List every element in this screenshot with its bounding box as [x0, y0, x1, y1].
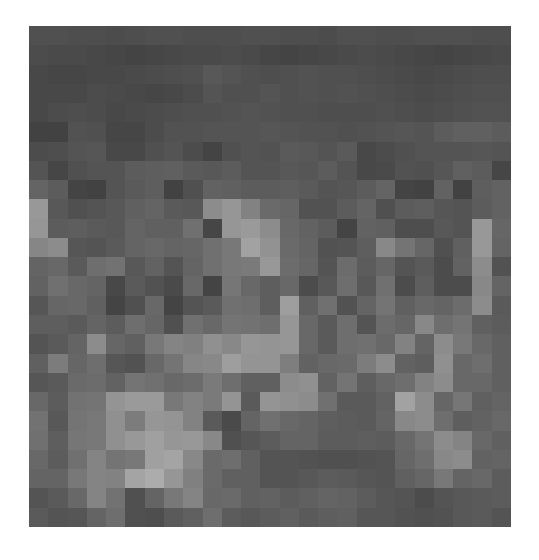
mosaic-cell: [357, 392, 376, 411]
mosaic-cell: [492, 411, 511, 430]
mosaic-cell: [164, 84, 183, 103]
mosaic-cell: [318, 450, 337, 469]
mosaic-cell: [357, 431, 376, 450]
mosaic-cell: [395, 276, 414, 295]
mosaic-cell: [415, 238, 434, 257]
mosaic-cell: [68, 161, 87, 180]
mosaic-cell: [337, 431, 356, 450]
mosaic-cell: [318, 84, 337, 103]
mosaic-cell: [472, 103, 491, 122]
mosaic-cell: [376, 103, 395, 122]
mosaic-cell: [48, 354, 67, 373]
mosaic-cell: [318, 26, 337, 45]
mosaic-cell: [337, 103, 356, 122]
mosaic-cell: [29, 199, 48, 218]
mosaic-cell: [87, 45, 106, 64]
mosaic-cell: [280, 315, 299, 334]
mosaic-cell: [260, 26, 279, 45]
mosaic-cell: [337, 142, 356, 161]
mosaic-cell: [29, 238, 48, 257]
mosaic-cell: [453, 199, 472, 218]
mosaic-cell: [376, 431, 395, 450]
mosaic-cell: [106, 199, 125, 218]
mosaic-cell: [415, 508, 434, 527]
mosaic-cell: [472, 411, 491, 430]
mosaic-cell: [145, 392, 164, 411]
mosaic-cell: [453, 84, 472, 103]
mosaic-cell: [337, 411, 356, 430]
mosaic-cell: [145, 161, 164, 180]
mosaic-cell: [453, 354, 472, 373]
mosaic-cell: [222, 411, 241, 430]
mosaic-cell: [203, 65, 222, 84]
mosaic-cell: [106, 84, 125, 103]
mosaic-cell: [222, 199, 241, 218]
mosaic-cell: [453, 276, 472, 295]
mosaic-cell: [68, 84, 87, 103]
mosaic-cell: [68, 508, 87, 527]
mosaic-cell: [183, 26, 202, 45]
mosaic-cell: [203, 469, 222, 488]
mosaic-cell: [203, 219, 222, 238]
mosaic-cell: [222, 45, 241, 64]
mosaic-cell: [48, 26, 67, 45]
mosaic-cell: [48, 488, 67, 507]
mosaic-cell: [29, 26, 48, 45]
mosaic-cell: [125, 45, 144, 64]
mosaic-cell: [376, 26, 395, 45]
mosaic-cell: [434, 392, 453, 411]
mosaic-cell: [337, 392, 356, 411]
mosaic-cell: [337, 122, 356, 141]
mosaic-cell: [68, 103, 87, 122]
mosaic-cell: [434, 257, 453, 276]
mosaic-cell: [472, 508, 491, 527]
mosaic-cell: [87, 84, 106, 103]
mosaic-cell: [164, 469, 183, 488]
mosaic-cell: [357, 488, 376, 507]
mosaic-cell: [125, 257, 144, 276]
mosaic-cell: [357, 238, 376, 257]
mosaic-cell: [415, 219, 434, 238]
mosaic-cell: [145, 276, 164, 295]
mosaic-cell: [48, 431, 67, 450]
mosaic-cell: [318, 431, 337, 450]
mosaic-cell: [453, 161, 472, 180]
mosaic-cell: [222, 315, 241, 334]
pixelated-image: [29, 26, 511, 527]
mosaic-cell: [492, 122, 511, 141]
mosaic-cell: [87, 142, 106, 161]
mosaic-cell: [241, 508, 260, 527]
mosaic-cell: [183, 450, 202, 469]
mosaic-cell: [241, 373, 260, 392]
mosaic-cell: [241, 45, 260, 64]
mosaic-cell: [280, 431, 299, 450]
mosaic-cell: [145, 257, 164, 276]
mosaic-cell: [106, 488, 125, 507]
mosaic-cell: [164, 238, 183, 257]
mosaic-cell: [222, 392, 241, 411]
mosaic-cell: [106, 508, 125, 527]
mosaic-cell: [415, 180, 434, 199]
mosaic-cell: [318, 238, 337, 257]
mosaic-cell: [241, 257, 260, 276]
mosaic-cell: [125, 431, 144, 450]
mosaic-cell: [87, 26, 106, 45]
mosaic-cell: [183, 219, 202, 238]
mosaic-cell: [299, 469, 318, 488]
mosaic-cell: [299, 296, 318, 315]
mosaic-cell: [125, 238, 144, 257]
mosaic-cell: [125, 103, 144, 122]
mosaic-cell: [29, 315, 48, 334]
mosaic-cell: [395, 334, 414, 353]
mosaic-cell: [357, 334, 376, 353]
mosaic-cell: [260, 508, 279, 527]
mosaic-cell: [68, 431, 87, 450]
mosaic-cell: [164, 296, 183, 315]
mosaic-cell: [29, 469, 48, 488]
mosaic-cell: [415, 257, 434, 276]
mosaic-cell: [145, 122, 164, 141]
mosaic-cell: [164, 199, 183, 218]
mosaic-cell: [203, 296, 222, 315]
mosaic-cell: [415, 103, 434, 122]
mosaic-cell: [145, 142, 164, 161]
